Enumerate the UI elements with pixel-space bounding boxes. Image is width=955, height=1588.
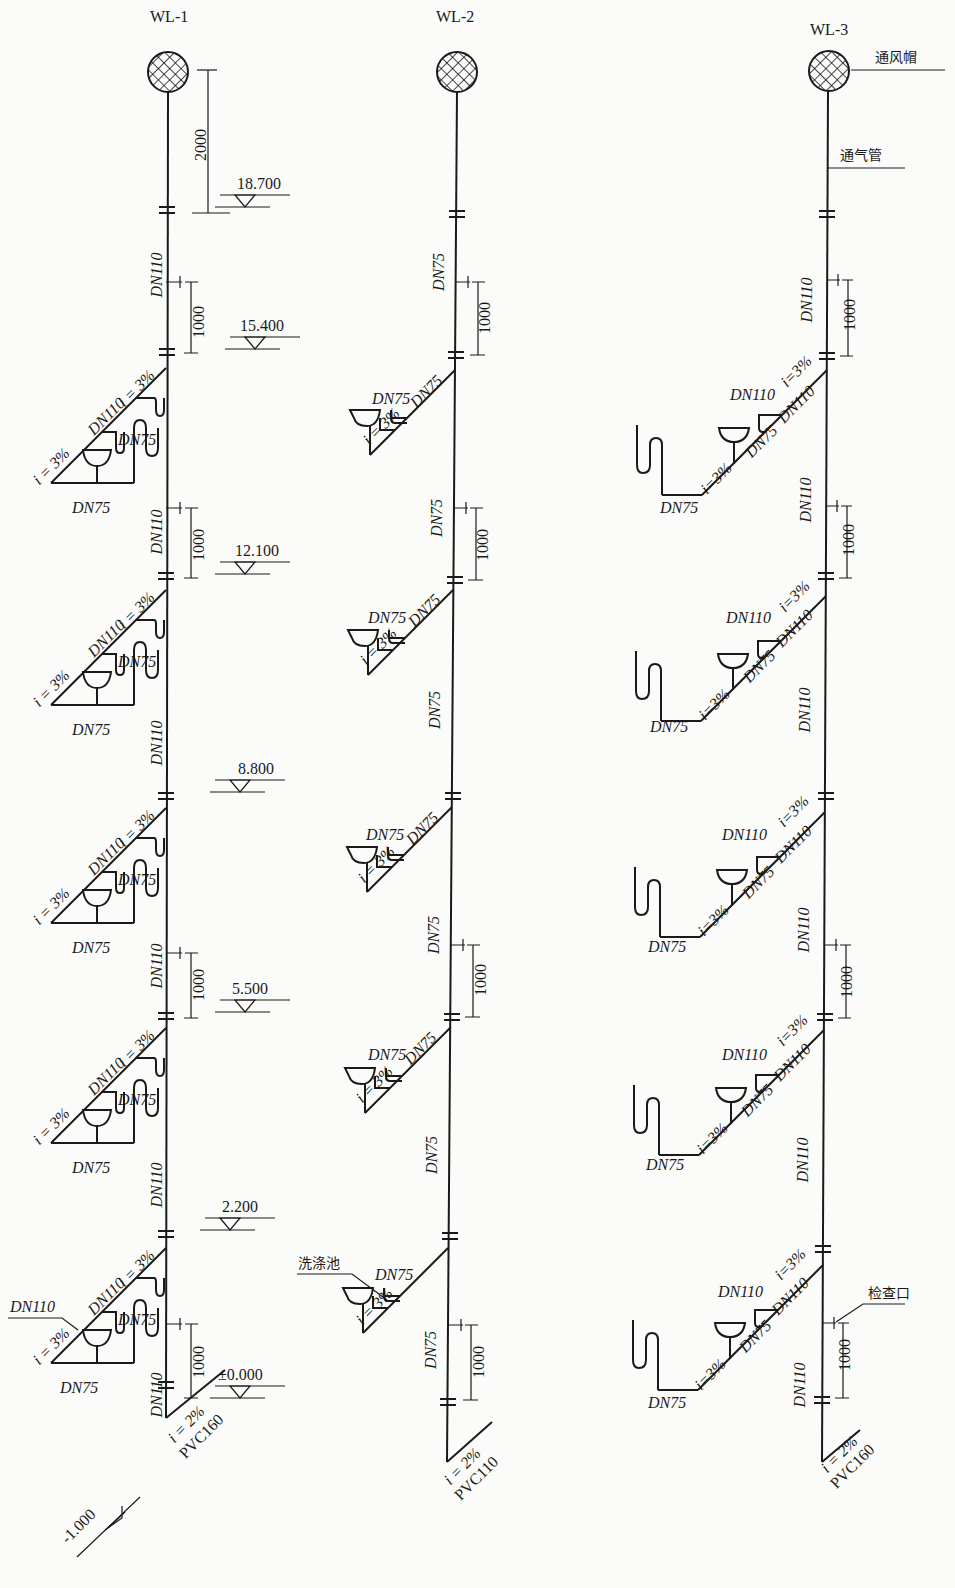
svg-text:DN110: DN110: [725, 609, 771, 626]
elevation-label: 18.700: [237, 175, 281, 192]
svg-text:DN75: DN75: [59, 1379, 98, 1396]
stack-size: DN110: [148, 252, 165, 298]
svg-text:DN110: DN110: [729, 386, 775, 403]
svg-text:i = 3%: i = 3%: [29, 1324, 73, 1368]
svg-text:i=3%: i=3%: [775, 577, 813, 615]
svg-text:12.100: 12.100: [235, 542, 279, 559]
svg-text:DN75: DN75: [117, 653, 156, 670]
riser-title: WL-2: [436, 8, 474, 25]
svg-text:DN75: DN75: [649, 718, 688, 735]
svg-text:-1.000: -1.000: [57, 1505, 98, 1546]
cleanout-dim: 1000 1000 1000 1000: [449, 276, 493, 1400]
svg-text:±0.000: ±0.000: [218, 1366, 263, 1383]
svg-text:5.500: 5.500: [232, 980, 268, 997]
svg-text:i = 3%: i = 3%: [29, 1104, 73, 1148]
riser-wl2: WL-2 1000 1000 1000 1000 DN75 DN75 DN75 …: [297, 8, 501, 1503]
riser-wl1: WL-1 2000 1000 1000 1000 1000 DN110: [8, 8, 230, 1462]
svg-text:1000: 1000: [476, 302, 493, 334]
svg-text:DN110: DN110: [769, 1040, 814, 1085]
svg-text:DN110: DN110: [721, 1046, 767, 1063]
svg-text:i=3%: i=3%: [773, 1011, 811, 1049]
svg-text:i = 3%: i = 3%: [114, 366, 158, 410]
svg-text:DN110: DN110: [148, 720, 165, 766]
svg-text:1000: 1000: [472, 964, 489, 996]
svg-text:DN75: DN75: [402, 809, 442, 849]
svg-text:DN110: DN110: [798, 277, 815, 323]
svg-text:15.400: 15.400: [240, 317, 284, 334]
branch-labels-wl3: DN110 i=3% DN110 DN75 i=3% DN75 DN110 i=…: [645, 352, 818, 1411]
riser-wl3: WL-3 通风帽 通气管 1000 1000 1000 1000 检查口 DN1…: [633, 21, 945, 1492]
svg-text:1000: 1000: [190, 1346, 207, 1378]
svg-text:DN110: DN110: [797, 477, 814, 523]
svg-text:1000: 1000: [836, 1339, 853, 1371]
cleanout-callout: 检查口: [868, 1285, 910, 1301]
drainage-riser-diagram: WL-1 2000 1000 1000 1000 1000 DN110: [0, 0, 955, 1588]
svg-text:DN75: DN75: [659, 499, 698, 516]
vent-cap-callout: 通风帽: [875, 49, 917, 65]
svg-text:DN75: DN75: [423, 1136, 440, 1175]
svg-text:DN110: DN110: [767, 1274, 812, 1319]
svg-text:i=3%: i=3%: [693, 1119, 731, 1157]
svg-text:DN75: DN75: [425, 916, 442, 955]
svg-text:DN75: DN75: [426, 691, 443, 730]
svg-text:DN75: DN75: [365, 826, 404, 843]
svg-text:DN75: DN75: [117, 1091, 156, 1108]
svg-text:DN75: DN75: [404, 591, 444, 631]
svg-text:DN110: DN110: [796, 687, 813, 733]
svg-text:DN75: DN75: [117, 431, 156, 448]
dimension-label: 2000: [192, 129, 209, 161]
svg-text:DN110: DN110: [794, 1137, 811, 1183]
svg-text:DN75: DN75: [647, 1394, 686, 1411]
svg-text:1000: 1000: [474, 529, 491, 561]
svg-text:DN110: DN110: [717, 1283, 763, 1300]
svg-text:DN75: DN75: [406, 372, 446, 412]
svg-text:DN110: DN110: [773, 382, 818, 427]
svg-text:i = 3%: i = 3%: [114, 1026, 158, 1070]
vent-cap-icon: [437, 52, 477, 92]
svg-text:1000: 1000: [190, 306, 207, 338]
sink-callout: 洗涤池: [298, 1255, 340, 1271]
svg-text:1000: 1000: [190, 529, 207, 561]
svg-text:DN110: DN110: [770, 822, 815, 867]
svg-text:1000: 1000: [470, 1346, 487, 1378]
svg-text:i=3%: i=3%: [697, 459, 735, 497]
svg-text:DN110: DN110: [795, 907, 812, 953]
svg-text:DN75: DN75: [374, 1266, 413, 1283]
vent-cap-icon: [809, 51, 849, 91]
svg-text:DN110: DN110: [148, 509, 165, 555]
svg-text:i=3%: i=3%: [777, 352, 815, 390]
svg-text:DN75: DN75: [428, 499, 445, 538]
svg-text:DN75: DN75: [645, 1156, 684, 1173]
svg-text:DN75: DN75: [71, 499, 110, 516]
svg-text:DN110: DN110: [771, 606, 816, 651]
svg-text:DN75: DN75: [430, 253, 447, 292]
svg-text:2.200: 2.200: [222, 1198, 258, 1215]
svg-text:DN75: DN75: [71, 721, 110, 738]
svg-text:DN75: DN75: [71, 1159, 110, 1176]
svg-text:1000: 1000: [838, 966, 855, 998]
svg-text:i=3%: i=3%: [771, 1245, 809, 1283]
svg-text:8.800: 8.800: [238, 760, 274, 777]
svg-text:DN75: DN75: [71, 939, 110, 956]
riser-title: WL-1: [150, 8, 188, 25]
svg-text:1000: 1000: [840, 524, 857, 556]
svg-text:1000: 1000: [841, 299, 858, 331]
svg-text:i=3%: i=3%: [691, 1355, 729, 1393]
svg-text:i = 3%: i = 3%: [114, 1246, 158, 1290]
cleanout-dim: 1000 1000 1000 1000: [823, 274, 858, 1398]
svg-text:DN110: DN110: [148, 1162, 165, 1208]
svg-text:DN75: DN75: [367, 609, 406, 626]
svg-text:DN75: DN75: [117, 1311, 156, 1328]
vent-cap-icon: [148, 52, 188, 92]
svg-text:DN110: DN110: [791, 1362, 808, 1408]
svg-text:DN75: DN75: [647, 938, 686, 955]
svg-text:DN110: DN110: [148, 943, 165, 989]
svg-text:i = 3%: i = 3%: [29, 884, 73, 928]
svg-text:DN75: DN75: [117, 871, 156, 888]
branch-callout: DN110: [9, 1298, 55, 1315]
riser-title: WL-3: [810, 21, 848, 38]
svg-text:i=3%: i=3%: [695, 685, 733, 723]
svg-text:1000: 1000: [190, 969, 207, 1001]
svg-text:i = 3%: i = 3%: [114, 806, 158, 850]
vent-pipe-callout: 通气管: [840, 147, 882, 163]
